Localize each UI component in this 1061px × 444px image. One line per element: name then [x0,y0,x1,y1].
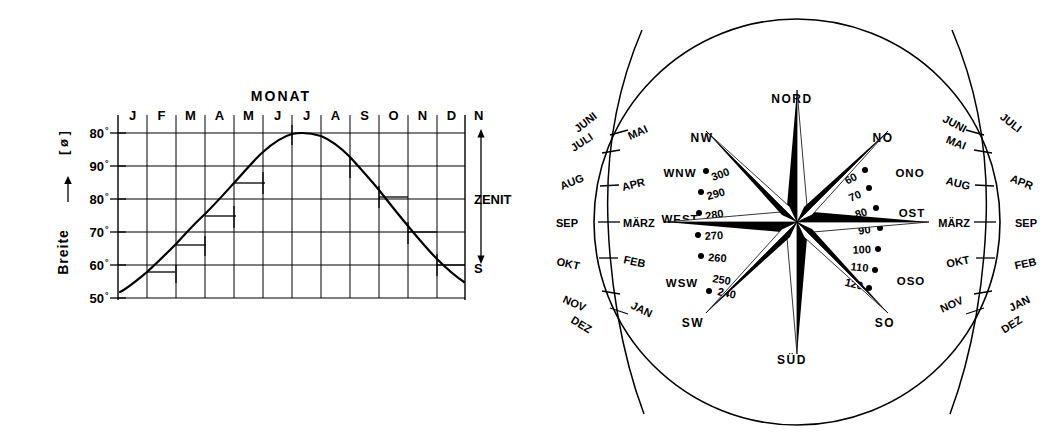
azimuth-label-290: 290 [705,185,726,202]
month-right-dez: DEZ [999,313,1024,335]
month-right-sep: SEP [1015,217,1037,229]
azimuth-dot-left-6 [706,288,712,294]
month-right-jan: JAN [1007,293,1032,313]
month-left-sep: SEP [556,217,578,229]
azimuth-label-100: 100 [852,243,871,256]
month-label-nov: N [418,108,427,123]
compass-label-wsw: WSW [666,277,698,289]
y-tick-label-2: 80 ° [90,191,109,207]
month-label-sep: S [360,108,369,123]
month-left-juni: JUNI [572,110,599,135]
label-zenit: ZENIT [474,192,512,207]
svg-text:°: ° [105,158,109,168]
azimuth-label-260: 260 [708,251,727,264]
azimuth-dot-right-4 [875,246,881,252]
month-label-jul: J [303,108,310,123]
azimuth-label-270: 270 [704,229,723,242]
month-left-juli: JULI [568,130,594,153]
compass-rose-icon [665,90,929,354]
solar-elevation-chart-panel: MONAT Breite [ ø ] [0,0,540,444]
svg-text:°: ° [105,191,109,201]
svg-text:90: 90 [90,159,104,174]
label-north: N [474,108,483,123]
azimuth-dot-right-1 [866,185,872,191]
compass-diagram-panel: NORD SÜD NW NO SW SO WNW WEST WSW ONO OS… [540,0,1061,444]
month-label-aug: A [331,108,341,123]
month-left-nov: NOV [561,293,588,314]
month-axis-labels: J F M A M J J A S O N D [129,108,456,123]
azimuth-label-70: 70 [847,188,863,204]
azimuth-dot-left-1 [698,189,704,195]
month-left-okt: OKT [556,255,581,272]
compass-label-ost: OST [899,207,926,219]
month-label-may: M [243,108,254,123]
chart-title: MONAT [251,88,311,104]
azimuth-dot-right-0 [862,167,868,173]
compass-svg: NORD SÜD NW NO SW SO WNW WEST WSW ONO OS… [540,0,1061,444]
azimuth-dot-right-5 [872,267,878,273]
azimuth-scale-left: 300 290 280 270 260 250 240 [695,165,737,300]
svg-text:80: 80 [90,192,104,207]
azimuth-dot-left-2 [696,210,702,216]
svg-text:50: 50 [90,291,104,306]
month-right-maerz: MÄRZ [938,217,970,229]
y-axis-unit: [ ø ] [56,131,71,155]
month-right-mai: MAI [945,133,968,152]
month-right-aug: AUG [945,174,972,192]
left-chart-svg: MONAT Breite [ ø ] [0,0,540,444]
month-right-okt: OKT [945,253,970,270]
month-right-juli: JULI [998,110,1024,134]
compass-label-ono: ONO [895,167,924,179]
y-tick-label-5: 50 ° [90,290,109,306]
compass-label-oso: OSO [897,275,926,287]
svg-text:80: 80 [90,126,104,141]
month-right-juni: JUNI [941,112,969,134]
compass-label-nord: NORD [771,92,812,106]
right-edge-annotations: N ZENIT S [474,108,512,276]
curve-intersection-ticks [147,125,465,283]
month-label-feb: F [158,108,166,123]
compass-label-so: SO [875,316,895,330]
y-axis-up-arrow-icon [64,176,72,202]
month-left-jan: JAN [629,299,654,319]
month-labels-right: JULI APR SEP FEB JAN DEZ JUNI MAI AUG MÄ… [938,110,1037,335]
month-left-aug: AUG [558,172,585,192]
compass-label-sw: SW [682,316,704,330]
svg-text:60: 60 [90,258,104,273]
month-label-mar: M [185,108,196,123]
azimuth-dot-left-3 [695,232,701,238]
month-left-apr: APR [621,176,646,193]
y-tick-label-3: 70 ° [90,224,109,240]
azimuth-label-300: 300 [710,165,731,183]
month-left-dez: DEZ [569,314,594,336]
month-label-dec: D [447,108,456,123]
azimuth-label-110: 110 [850,260,869,274]
month-left-feb: FEB [623,253,647,269]
y-tick-label-4: 60 ° [90,257,109,273]
azimuth-dot-right-2 [873,205,879,211]
compass-label-wnw: WNW [663,167,696,179]
month-label-apr: A [215,108,225,123]
azimuth-dot-left-0 [703,168,709,174]
month-right-feb: FEB [1013,255,1037,271]
month-label-jan: J [129,108,136,123]
figure-root: MONAT Breite [ ø ] [0,0,1061,444]
compass-label-sued: SÜD [777,352,807,367]
svg-text:°: ° [105,290,109,300]
y-tick-labels: 80 ° 90 ° 80 ° 70 ° 60 ° [90,125,109,306]
compass-label-nw: NW [691,131,714,145]
month-right-apr: APR [1009,172,1035,192]
month-right-nov: NOV [938,294,965,315]
month-left-maerz: MÄRZ [623,217,655,229]
month-left-mai: MAI [626,123,649,142]
y-tick-label-0: 80 ° [90,125,109,141]
azimuth-dot-left-4 [698,253,704,259]
svg-text:70: 70 [90,225,104,240]
svg-text:°: ° [105,257,109,267]
y-axis-name: Breite [55,229,71,275]
month-label-jun: J [274,108,281,123]
svg-text:°: ° [105,224,109,234]
month-label-oct: O [388,108,398,123]
label-south: S [474,261,483,276]
y-tick-label-1: 90 ° [90,158,109,174]
